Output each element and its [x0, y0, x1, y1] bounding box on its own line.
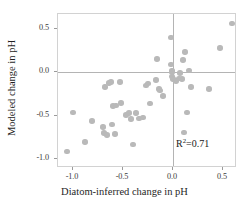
- r-squared-annotation: R2=0.71: [176, 137, 209, 149]
- y-axis-tick-label: 0.5: [19, 23, 49, 32]
- x-axis-tick-mark: [72, 167, 73, 170]
- r-squared-symbol: R: [176, 138, 183, 149]
- data-point: [188, 84, 194, 90]
- x-axis-tick-mark: [122, 167, 123, 170]
- data-point: [89, 118, 95, 124]
- data-point: [181, 130, 187, 136]
- scatter-plot-figure: Modeled change in pH 0.50.0-0.5-1.0 -1.0…: [0, 0, 249, 206]
- y-axis-title: Modeled change in pH: [6, 40, 17, 136]
- data-point: [70, 110, 76, 116]
- data-point: [206, 86, 212, 92]
- data-point: [154, 56, 160, 62]
- data-point: [117, 79, 123, 85]
- data-point: [186, 68, 192, 74]
- x-axis-tick-label: 0.0: [152, 172, 192, 181]
- data-point: [147, 101, 153, 107]
- data-point: [100, 124, 106, 130]
- data-point: [109, 122, 115, 128]
- data-point: [112, 131, 118, 137]
- x-axis-tick-label: -0.5: [102, 172, 142, 181]
- x-axis-title: Diatom-inferred change in pH: [0, 186, 249, 197]
- data-point: [126, 110, 132, 116]
- data-point: [64, 149, 70, 155]
- data-point: [160, 93, 166, 99]
- data-point: [177, 70, 183, 76]
- data-point: [82, 139, 88, 145]
- x-axis-tick-label: -1.0: [52, 172, 92, 181]
- data-point: [179, 76, 185, 82]
- data-point: [128, 116, 134, 122]
- data-point: [140, 115, 146, 121]
- data-point: [184, 110, 190, 116]
- y-axis-tick-label: -1.0: [19, 153, 49, 162]
- data-point: [180, 57, 186, 63]
- data-point: [145, 81, 151, 87]
- data-point: [153, 77, 159, 83]
- data-point: [130, 142, 136, 148]
- data-point: [108, 79, 114, 85]
- x-axis-tick-mark: [222, 167, 223, 170]
- data-point: [168, 35, 174, 41]
- data-point: [168, 62, 174, 68]
- y-axis-tick-label: 0.0: [19, 66, 49, 75]
- x-axis-tick-mark: [172, 167, 173, 170]
- zero-reference-line-horizontal: [58, 72, 235, 73]
- y-axis-tick-label: -0.5: [19, 110, 49, 119]
- data-point: [229, 21, 235, 27]
- data-point: [118, 100, 124, 106]
- data-point: [104, 132, 110, 138]
- r-squared-value: =0.71: [186, 138, 209, 149]
- x-axis-tick-label: 0.5: [202, 172, 242, 181]
- data-point: [217, 45, 223, 51]
- data-point: [182, 49, 188, 55]
